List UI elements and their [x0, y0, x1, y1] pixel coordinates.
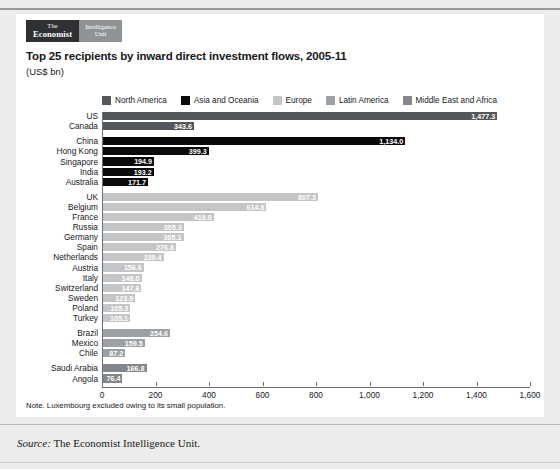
chart-subtitle: (US$ bn) — [26, 66, 64, 77]
x-axis-line — [102, 387, 530, 388]
eiu-logo: The Economist Intelligence Unit — [26, 20, 122, 42]
zero-baseline — [102, 112, 103, 387]
bar-row: 254.6 — [102, 329, 530, 337]
chart-legend: North AmericaAsia and OceaniaEuropeLatin… — [102, 96, 497, 105]
bar-value-label: 87.2 — [109, 349, 123, 358]
bar-value-label: 105.1 — [110, 313, 128, 322]
top-divider — [0, 8, 560, 10]
bar-row: 166.8 — [102, 364, 530, 372]
bar — [102, 112, 497, 120]
bar-value-label: 193.2 — [134, 167, 152, 176]
category-label: US — [26, 111, 98, 121]
bar-value-label: 305.1 — [164, 233, 182, 242]
logo-economist-text: Economist — [33, 30, 72, 39]
bar — [102, 203, 266, 211]
x-axis-tick — [423, 382, 424, 386]
x-axis-tick-label: 800 — [309, 390, 323, 400]
category-label: Turkey — [26, 313, 98, 323]
bar-row: 193.2 — [102, 168, 530, 176]
category-label: UK — [26, 192, 98, 202]
legend-item: Asia and Oceania — [181, 96, 259, 105]
category-label: Russia — [26, 222, 98, 232]
legend-swatch-icon — [273, 96, 282, 105]
bar-row: 1,477.3 — [102, 112, 530, 120]
category-label: Canada — [26, 121, 98, 131]
legend-label: Asia and Oceania — [194, 96, 259, 105]
category-label: Hong Kong — [26, 146, 98, 156]
bar-row: 147.6 — [102, 284, 530, 292]
bar-row: 276.8 — [102, 243, 530, 251]
bar-row: 399.3 — [102, 147, 530, 155]
x-axis-tick-label: 1,400 — [466, 390, 487, 400]
bar-row: 343.6 — [102, 122, 530, 130]
legend-swatch-icon — [181, 96, 190, 105]
bar-value-label: 1,134.0 — [379, 137, 403, 146]
bar-row: 194.9 — [102, 157, 530, 165]
bar-row: 105.1 — [102, 314, 530, 322]
bar-value-label: 1,477.3 — [471, 112, 495, 121]
bar-row: 305.1 — [102, 233, 530, 241]
x-axis-tick — [477, 382, 478, 386]
chart-plot-area: US1,477.3Canada343.6China1,134.0Hong Kon… — [26, 110, 534, 400]
bar-row: 156.6 — [102, 263, 530, 271]
bar-row: 148.0 — [102, 274, 530, 282]
chart-note: Note. Luxembourg excluded owing to its s… — [26, 401, 225, 410]
bar-value-label: 123.9 — [115, 293, 133, 302]
x-axis-tick-label: 1,600 — [520, 390, 541, 400]
category-label: China — [26, 136, 98, 146]
legend-item: Latin America — [326, 96, 389, 105]
category-label: Mexico — [26, 338, 98, 348]
category-label: Chile — [26, 348, 98, 358]
bar-value-label: 159.5 — [125, 339, 143, 348]
source-line: Source: The Economist Intelligence Unit. — [17, 437, 200, 449]
category-label: Angola — [26, 374, 98, 384]
legend-item: Middle East and Africa — [403, 96, 497, 105]
bar-value-label: 147.6 — [121, 283, 139, 292]
bar-value-label: 343.6 — [174, 122, 192, 131]
x-axis-tick-label: 200 — [149, 390, 163, 400]
bar-value-label: 76.4 — [106, 374, 120, 383]
source-text: The Economist Intelligence Unit. — [53, 437, 200, 449]
bar-value-label: 166.8 — [127, 364, 145, 373]
category-label: Austria — [26, 263, 98, 273]
legend-label: Middle East and Africa — [416, 96, 497, 105]
legend-item: Europe — [273, 96, 312, 105]
category-label: Italy — [26, 273, 98, 283]
bar-value-label: 105.3 — [110, 303, 128, 312]
x-axis-tick — [156, 382, 157, 386]
category-label: Switzerland — [26, 283, 98, 293]
bar-row: 87.2 — [102, 349, 530, 357]
source-divider — [0, 424, 560, 425]
category-label: Netherlands — [26, 252, 98, 262]
x-axis-tick — [370, 382, 371, 386]
bar-value-label: 156.6 — [124, 263, 142, 272]
x-axis-tick-label: 0 — [100, 390, 105, 400]
category-label: France — [26, 212, 98, 222]
bar-row: 159.5 — [102, 339, 530, 347]
figure-card: The Economist Intelligence Unit Top 25 r… — [16, 14, 544, 417]
x-axis-tick-label: 1,200 — [413, 390, 434, 400]
bar-value-label: 194.9 — [134, 157, 152, 166]
legend-swatch-icon — [326, 96, 335, 105]
bar-value-label: 148.0 — [122, 273, 140, 282]
chart-title: Top 25 recipients by inward direct inves… — [26, 50, 347, 62]
legend-label: North America — [115, 96, 167, 105]
bar-row: 171.7 — [102, 178, 530, 186]
x-axis-tick-label: 600 — [256, 390, 270, 400]
x-axis-tick-label: 1,000 — [359, 390, 380, 400]
legend-swatch-icon — [403, 96, 412, 105]
x-axis-tick-label: 400 — [202, 390, 216, 400]
bottom-divider — [0, 462, 560, 463]
logo-unit-text: Unit — [85, 30, 116, 37]
legend-label: Europe — [286, 96, 312, 105]
bar-value-label: 614.8 — [246, 202, 264, 211]
bar-row: 418.0 — [102, 213, 530, 221]
bar-value-label: 807.3 — [298, 192, 316, 201]
category-label: India — [26, 167, 98, 177]
bar-row: 807.3 — [102, 193, 530, 201]
intelligence-unit-logo-box: Intelligence Unit — [79, 20, 122, 42]
bar-value-label: 418.0 — [194, 212, 212, 221]
bar-row: 123.9 — [102, 294, 530, 302]
bar-row: 230.4 — [102, 253, 530, 261]
bar-value-label: 171.7 — [128, 177, 146, 186]
